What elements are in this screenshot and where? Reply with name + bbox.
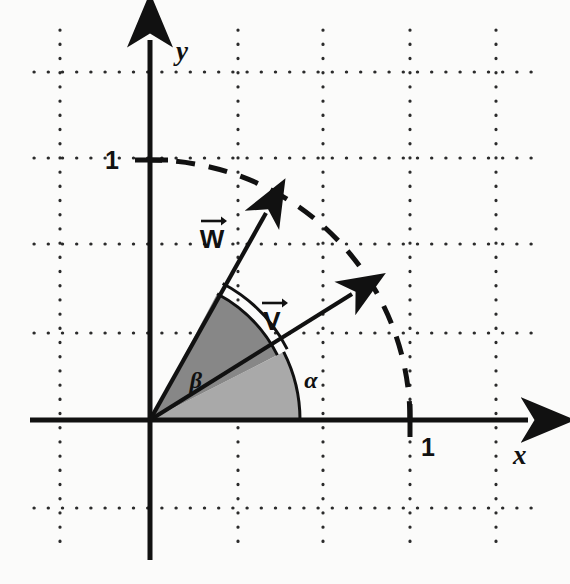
paper-background [0, 0, 570, 584]
x-axis-label: x [512, 440, 527, 470]
vector-angle-figure: y x 1 1 W V β α [0, 0, 570, 584]
vector-w-label: W [200, 224, 225, 254]
vector-w-label-group: W [200, 216, 227, 254]
x-axis-tick-label: 1 [421, 433, 435, 461]
beta-angle-label: β [189, 367, 203, 393]
y-axis-tick-label: 1 [105, 146, 119, 174]
diagram-canvas: y x 1 1 W V β α [0, 0, 570, 584]
vector-v-label: V [263, 306, 281, 336]
alpha-angle-label: α [304, 367, 318, 393]
y-axis-label: y [173, 36, 189, 66]
